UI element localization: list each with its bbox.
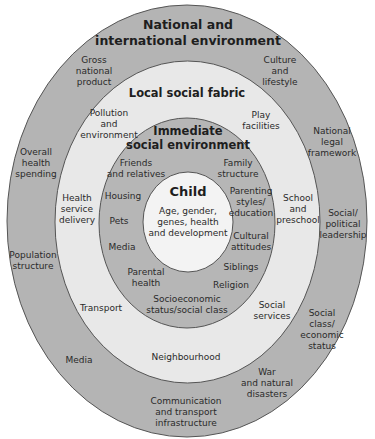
local-ring-title: Local social fabric — [129, 86, 245, 100]
label-siblings: Siblings — [223, 262, 258, 273]
label-cultural-attitudes: Cultural attitudes — [231, 231, 271, 253]
immediate-ring-title: Immediate social environment — [126, 124, 250, 152]
label-neighbourhood: Neighbourhood — [151, 352, 220, 363]
national-ring-title: National and international environment — [95, 17, 281, 49]
label-population-structure: Population structure — [9, 250, 56, 272]
label-parenting-styles-education: Parenting styles/ education — [229, 186, 274, 219]
label-gross-national-product: Gross national product — [76, 55, 112, 88]
label-pets: Pets — [110, 216, 129, 227]
child-description: Age, gender, genes, health and developme… — [148, 206, 227, 239]
label-religion: Religion — [213, 280, 249, 291]
label-friends-and-relatives: Friends and relatives — [107, 158, 165, 180]
label-socioeconomic-status: Socioeconomic status/social class — [146, 294, 228, 316]
label-housing: Housing — [105, 191, 142, 202]
label-communication-and-transport-infrastructure: Communication and transport infrastructu… — [151, 396, 222, 429]
label-health-service-delivery: Health service delivery — [59, 193, 95, 226]
child-title: Child — [169, 184, 206, 200]
label-culture-and-lifestyle: Culture and lifestyle — [262, 55, 297, 88]
label-school-and-preschool: School and preschool — [276, 193, 320, 226]
label-transport: Transport — [80, 303, 122, 314]
ecological-model-diagram: National and international environment G… — [0, 0, 375, 439]
label-social-political-leadership: Social/ political leadership — [319, 208, 366, 241]
label-family-structure: Family structure — [218, 158, 259, 180]
label-social-class-economic-status: Social class/ economic status — [296, 308, 349, 352]
label-overall-health-spending: Overall health spending — [15, 147, 56, 180]
label-media-immediate: Media — [108, 242, 135, 253]
label-parental-health: Parental health — [128, 267, 165, 289]
label-national-legal-framework: National legal framework — [308, 126, 356, 159]
label-war-and-natural-disasters: War and natural disasters — [241, 367, 293, 400]
label-media-national: Media — [65, 355, 92, 366]
label-social-services: Social services — [254, 300, 291, 322]
